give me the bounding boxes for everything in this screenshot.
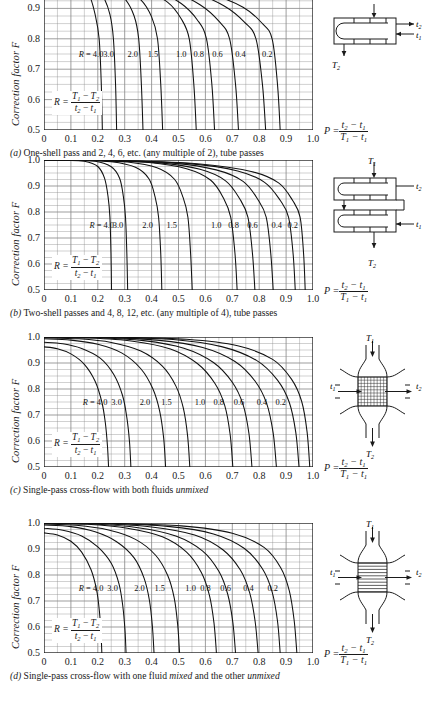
schematic-crossflow-both-unmixed: T1 T2 t1 t2	[330, 331, 427, 461]
r-definition-lead: R =	[54, 438, 69, 448]
curve-label-r-4: R = 4.0	[78, 50, 104, 59]
x-tick-0.6: 0.6	[195, 470, 215, 481]
curve-label-r-3: 3.0	[103, 50, 113, 59]
panel-caption-a: (a) One-shell pass and 2, 4, 6, etc. (an…	[10, 147, 264, 158]
curve-label-r-0.6: 0.6	[234, 398, 244, 407]
y-tick-0.8: 0.8	[18, 383, 40, 394]
svg-text:T1: T1	[366, 519, 374, 530]
y-tick-0.7: 0.7	[18, 232, 40, 243]
r-definition: R = T1 − T2t2 − t1	[52, 618, 102, 643]
curve-label-r-0.8: 0.8	[228, 221, 238, 230]
curve-label-r-3: 3.0	[111, 398, 121, 407]
curve-label-r-0.6: 0.6	[220, 584, 230, 593]
svg-text:T2: T2	[368, 258, 376, 269]
x-tick-0.3: 0.3	[115, 133, 135, 144]
curve-label-r-1: 1.0	[211, 221, 221, 230]
x-tick-0.2: 0.2	[88, 656, 108, 667]
curve-label-r-0.2: 0.2	[262, 50, 272, 59]
x-tick-0.4: 0.4	[142, 133, 162, 144]
x-tick-0.7: 0.7	[222, 470, 242, 481]
x-tick-0.4: 0.4	[142, 293, 162, 304]
y-tick-1.0: 1.0	[18, 517, 40, 528]
curve-label-r-0.8: 0.8	[200, 584, 210, 593]
panel-caption-b: (b) Two-shell passes and 4, 8, 12, etc. …	[10, 307, 277, 318]
x-tick-0: 0	[34, 293, 54, 304]
svg-text:t2: t2	[416, 181, 422, 192]
x-tick-0.9: 0.9	[276, 470, 296, 481]
x-tick-0.1: 0.1	[61, 133, 81, 144]
x-tick-1.0: 1.0	[303, 293, 323, 304]
x-tick-0.8: 0.8	[249, 293, 269, 304]
curve-label-r-1.5: 1.5	[161, 398, 171, 407]
curve-label-r-1.5: 1.5	[167, 221, 177, 230]
y-tick-0.6: 0.6	[18, 94, 40, 105]
p-definition-fraction: t2 − t1T1 − t1	[339, 280, 368, 303]
x-tick-0.5: 0.5	[169, 656, 189, 667]
x-tick-0.5: 0.5	[169, 293, 189, 304]
p-definition: P =t2 − t1T1 − t1	[324, 120, 368, 143]
r-definition-fraction: T1 − T2t2 − t1	[71, 432, 100, 457]
curve-label-r-3: 3.0	[107, 584, 117, 593]
curve-label-r-4: R = 4.0	[78, 584, 104, 593]
x-tick-0.1: 0.1	[61, 470, 81, 481]
curve-label-r-0.2: 0.2	[275, 398, 285, 407]
r-definition-lead: R =	[54, 624, 69, 634]
x-tick-0.9: 0.9	[276, 656, 296, 667]
x-tick-0.9: 0.9	[276, 293, 296, 304]
r-definition-fraction: T1 − T2t2 − t1	[71, 618, 100, 643]
p-definition-lead: P =	[324, 125, 339, 136]
p-definition-lead: P =	[324, 285, 339, 296]
curve-label-r-4: R = 4.0	[89, 221, 115, 230]
r-definition-lead: R =	[54, 97, 69, 107]
y-tick-1.0: 1.0	[18, 331, 40, 342]
svg-text:t1: t1	[330, 567, 336, 578]
y-tick-0.8: 0.8	[18, 33, 40, 44]
schematic-wrap-a: t2 t1 T2	[330, 0, 426, 76]
x-tick-1.0: 1.0	[303, 656, 323, 667]
y-tick-1.0: 1.0	[18, 154, 40, 165]
y-tick-0.7: 0.7	[18, 409, 40, 420]
x-tick-0.3: 0.3	[115, 656, 135, 667]
svg-text:t2: t2	[416, 19, 422, 30]
r-definition: R = T1 − T2t2 − t1	[52, 91, 102, 116]
curve-label-r-0.2: 0.2	[288, 221, 298, 230]
curve-label-r-1: 1.0	[185, 584, 195, 593]
p-definition-fraction: t2 − t1T1 − t1	[339, 120, 368, 143]
panel-caption-c: (c) Single-pass cross-flow with both flu…	[10, 484, 208, 495]
x-tick-0: 0	[34, 656, 54, 667]
y-tick-0.7: 0.7	[18, 595, 40, 606]
x-tick-0.6: 0.6	[195, 293, 215, 304]
svg-text:t1: t1	[416, 30, 422, 41]
curve-label-r-1: 1.0	[176, 50, 186, 59]
svg-text:T2: T2	[366, 449, 374, 460]
x-tick-0.6: 0.6	[195, 656, 215, 667]
curve-label-r-1.5: 1.5	[154, 584, 164, 593]
y-tick-0.9: 0.9	[18, 357, 40, 368]
curve-label-r-2: 2.0	[134, 584, 144, 593]
x-tick-0.1: 0.1	[61, 656, 81, 667]
x-tick-0.1: 0.1	[61, 293, 81, 304]
x-tick-0.3: 0.3	[115, 293, 135, 304]
svg-text:T1: T1	[366, 333, 374, 344]
caption-text: Single-pass cross-flow with one fluid mi…	[24, 670, 280, 681]
svg-text:T2: T2	[332, 60, 340, 71]
caption-text: One-shell pass and 2, 4, 6, etc. (any mu…	[24, 147, 264, 158]
x-tick-0.7: 0.7	[222, 656, 242, 667]
svg-text:t2: t2	[416, 567, 422, 578]
y-tick-0.6: 0.6	[18, 435, 40, 446]
x-tick-0: 0	[34, 470, 54, 481]
caption-id: (c)	[10, 484, 21, 495]
curve-label-r-2: 2.0	[140, 398, 150, 407]
x-tick-0.2: 0.2	[88, 133, 108, 144]
x-tick-0.8: 0.8	[249, 133, 269, 144]
r-definition-fraction: T1 − T2t2 − t1	[71, 255, 100, 280]
curve-label-r-0.4: 0.4	[235, 50, 246, 59]
svg-text:T2: T2	[366, 635, 374, 646]
curve-label-r-0.6: 0.6	[247, 221, 257, 230]
svg-text:t2: t2	[416, 381, 422, 392]
y-tick-0.8: 0.8	[18, 206, 40, 217]
curve-label-r-0.2: 0.2	[267, 584, 277, 593]
y-tick-0.9: 0.9	[18, 180, 40, 191]
curve-label-r-3: 3.0	[113, 221, 123, 230]
curve-label-r-1: 1.0	[195, 398, 205, 407]
